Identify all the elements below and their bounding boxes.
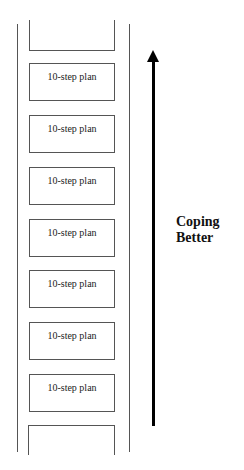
plan-box: 10-step plan [29, 167, 115, 205]
plan-box-label: 10-step plan [30, 330, 114, 341]
ladder-right-rail [129, 24, 130, 452]
bottom-partial-box [28, 425, 115, 455]
plan-box-label: 10-step plan [30, 278, 114, 289]
plan-box: 10-step plan [29, 374, 115, 412]
top-partial-box [29, 20, 115, 51]
plan-box-label: 10-step plan [30, 227, 114, 238]
plan-box-label: 10-step plan [30, 175, 114, 186]
plan-box: 10-step plan [29, 322, 115, 360]
plan-box: 10-step plan [29, 115, 115, 153]
plan-box-label: 10-step plan [30, 382, 114, 393]
arrow-shaft [152, 60, 155, 426]
plan-box: 10-step plan [29, 219, 115, 257]
plan-box: 10-step plan [29, 63, 115, 101]
plan-box: 10-step plan [29, 270, 115, 308]
coping-better-label: Coping Better [176, 214, 220, 246]
label-line-1: Coping [176, 214, 220, 230]
ladder-left-rail [17, 24, 18, 452]
plan-box-label: 10-step plan [30, 71, 114, 82]
label-line-2: Better [176, 230, 220, 246]
plan-box-label: 10-step plan [30, 123, 114, 134]
